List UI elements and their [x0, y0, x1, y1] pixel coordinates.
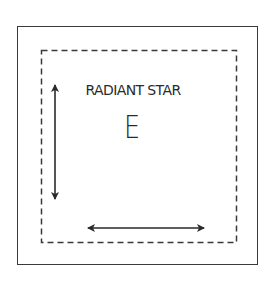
- diagram-title: RADIANT STAR: [80, 82, 186, 98]
- diagram-letter: E: [120, 109, 144, 145]
- dashed-border: [42, 51, 237, 243]
